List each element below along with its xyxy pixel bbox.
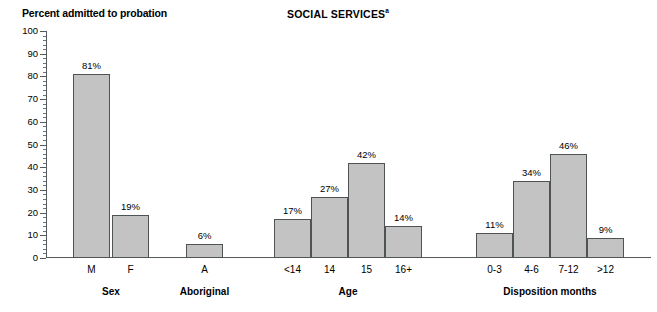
- y-tick-major: [40, 122, 46, 123]
- y-tick-minor: [43, 126, 46, 127]
- bar-value-label: 9%: [579, 225, 632, 235]
- bar: [513, 181, 550, 258]
- y-tick-minor: [43, 172, 46, 173]
- bar-value-label: 6%: [178, 231, 231, 241]
- y-tick-major: [40, 99, 46, 100]
- group-label: Age: [278, 287, 418, 297]
- y-tick-minor: [43, 140, 46, 141]
- y-tick-minor: [43, 181, 46, 182]
- y-tick-major: [40, 235, 46, 236]
- chart-title-text: SOCIAL SERVICES: [287, 8, 385, 20]
- y-tick-minor: [43, 194, 46, 195]
- y-tick-major: [40, 258, 46, 259]
- y-tick-minor: [43, 117, 46, 118]
- bar: [112, 215, 149, 258]
- y-tick-label: 90: [27, 49, 38, 59]
- y-tick-minor: [43, 217, 46, 218]
- bar-value-label: 46%: [542, 141, 595, 151]
- y-tick-minor: [43, 222, 46, 223]
- category-label: F: [106, 265, 156, 275]
- category-label: >12: [581, 265, 631, 275]
- group-label: Aboriginal: [135, 287, 275, 297]
- y-tick-minor: [43, 63, 46, 64]
- bar-value-label: 81%: [65, 61, 118, 71]
- bar-value-label: 19%: [104, 202, 157, 212]
- chart-figure: Percent admitted to probation SOCIAL SER…: [0, 0, 657, 312]
- y-tick-minor: [43, 135, 46, 136]
- y-tick-major: [40, 167, 46, 168]
- y-tick-minor: [43, 36, 46, 37]
- y-tick-minor: [43, 85, 46, 86]
- chart-title: SOCIAL SERVICESa: [287, 7, 389, 20]
- y-tick-major: [40, 31, 46, 32]
- y-axis-caption: Percent admitted to probation: [22, 7, 167, 19]
- y-tick-minor: [43, 104, 46, 105]
- y-tick-minor: [43, 72, 46, 73]
- y-tick-major: [40, 54, 46, 55]
- y-tick-minor: [43, 231, 46, 232]
- bar: [550, 154, 587, 258]
- y-tick-label: 60: [27, 117, 38, 127]
- y-tick-label: 20: [27, 208, 38, 218]
- y-tick-major: [40, 190, 46, 191]
- bar: [348, 163, 385, 258]
- y-tick-minor: [43, 253, 46, 254]
- category-label: 16+: [379, 265, 429, 275]
- bar: [587, 238, 624, 258]
- y-tick-minor: [43, 204, 46, 205]
- bar: [311, 197, 348, 258]
- y-tick-label: 80: [27, 71, 38, 81]
- y-tick-major: [40, 213, 46, 214]
- y-tick-minor: [43, 244, 46, 245]
- y-tick-label: 100: [22, 26, 38, 36]
- y-tick-minor: [43, 67, 46, 68]
- y-tick-major: [40, 76, 46, 77]
- bar: [186, 244, 223, 258]
- y-tick-major: [40, 145, 46, 146]
- bar: [73, 74, 110, 258]
- y-tick-label: 70: [27, 94, 38, 104]
- y-tick-minor: [43, 113, 46, 114]
- y-tick-label: 0: [33, 253, 38, 263]
- y-tick-minor: [43, 95, 46, 96]
- y-tick-minor: [43, 45, 46, 46]
- y-tick-minor: [43, 199, 46, 200]
- y-tick-minor: [43, 208, 46, 209]
- y-tick-minor: [43, 185, 46, 186]
- bar-value-label: 42%: [340, 150, 393, 160]
- y-tick-minor: [43, 249, 46, 250]
- y-tick-minor: [43, 40, 46, 41]
- y-tick-label: 30: [27, 185, 38, 195]
- y-tick-label: 40: [27, 162, 38, 172]
- y-tick-minor: [43, 158, 46, 159]
- bar: [476, 233, 513, 258]
- y-tick-label: 10: [27, 230, 38, 240]
- y-tick-minor: [43, 154, 46, 155]
- group-label: Disposition months: [480, 287, 620, 297]
- y-tick-minor: [43, 108, 46, 109]
- y-tick-minor: [43, 226, 46, 227]
- plot-area: 81%19%6%17%27%42%14%11%34%46%9%: [46, 31, 651, 258]
- y-tick-minor: [43, 131, 46, 132]
- category-label: A: [180, 265, 230, 275]
- y-tick-minor: [43, 149, 46, 150]
- y-axis-line: [46, 31, 47, 258]
- chart-title-footnote-marker: a: [385, 7, 389, 14]
- y-tick-minor: [43, 58, 46, 59]
- bar-value-label: 14%: [377, 213, 430, 223]
- y-tick-minor: [43, 176, 46, 177]
- y-tick-minor: [43, 90, 46, 91]
- y-tick-label: 50: [27, 140, 38, 150]
- y-tick-minor: [43, 163, 46, 164]
- bar: [385, 226, 422, 258]
- bar: [274, 219, 311, 258]
- y-tick-minor: [43, 49, 46, 50]
- y-axis-tick-labels: 0102030405060708090100: [0, 31, 38, 258]
- y-tick-minor: [43, 240, 46, 241]
- y-tick-minor: [43, 81, 46, 82]
